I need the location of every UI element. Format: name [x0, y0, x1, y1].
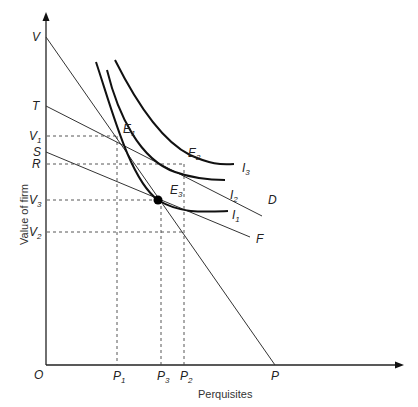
y-axis-arrow-icon: [43, 12, 50, 21]
y-axis-title: Value of firm: [18, 184, 30, 245]
origin-label: O: [34, 368, 43, 382]
curve-I3-label: I3: [242, 161, 250, 177]
x-label-P: P: [271, 369, 279, 383]
y-label-R: R: [32, 157, 41, 171]
point-E2-label: E2: [188, 146, 201, 162]
curve-I2-label: I2: [230, 188, 238, 204]
line-D-label: D: [268, 193, 277, 207]
y-label-V: V: [32, 30, 41, 44]
curve-I3: [115, 60, 234, 164]
x-axis-arrow-icon: [395, 362, 404, 369]
guide-lines: [47, 136, 184, 365]
x-label-P3: P3: [157, 369, 170, 385]
line-F-label: F: [256, 232, 264, 246]
x-label-P1: P1: [113, 369, 125, 385]
point-E3-label: E3: [170, 183, 183, 199]
x-label-P2: P2: [180, 369, 193, 385]
point-E3-marker: [154, 196, 163, 205]
y-label-V3: V3: [29, 193, 42, 209]
y-label-T: T: [32, 99, 41, 113]
x-axis-title: Perquisites: [198, 388, 253, 400]
point-E1-label: E1: [123, 122, 135, 138]
y-label-V1: V1: [29, 129, 41, 145]
diagram-canvas: V T V1 S R V3 V2 Value of firm O P1 P3 P…: [0, 0, 418, 407]
curve-I1-label: I1: [232, 208, 240, 224]
y-label-V2: V2: [29, 225, 42, 241]
